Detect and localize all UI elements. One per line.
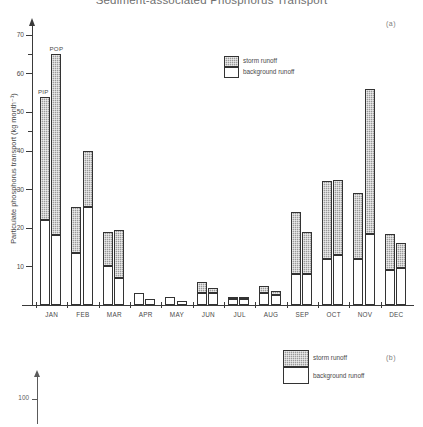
y-tick-10	[26, 266, 33, 267]
bar-segment-storm-runoff	[322, 181, 332, 258]
bar-nov-pop	[365, 89, 375, 305]
bar-segment-background-runoff	[353, 259, 363, 305]
legend-label-storm-runoff: storm runoff	[313, 354, 347, 361]
bar-feb-pip	[71, 207, 81, 305]
bar-aug-pip	[259, 286, 269, 305]
legend-swatches	[224, 56, 239, 78]
panel-b-y-axis-arrow	[34, 370, 40, 377]
y-tick-minor-65	[28, 54, 33, 55]
x-tick-feb	[67, 302, 68, 308]
y-tick-label-40: 40	[0, 147, 24, 154]
bar-segment-background-runoff	[197, 293, 207, 305]
y-tick-label-70: 70	[0, 31, 24, 38]
bar-dec-pop	[396, 243, 406, 305]
legend-swatches	[283, 350, 309, 384]
x-tick-aug	[255, 302, 256, 308]
x-tick-mar	[99, 302, 100, 308]
bar-sep-pip	[291, 212, 301, 305]
bar-mar-pop	[114, 230, 124, 305]
bar-segment-storm-runoff	[197, 282, 207, 294]
y-axis-arrow	[29, 18, 35, 26]
panel-b-label: (b)	[386, 354, 396, 361]
y-tick-label-30: 30	[0, 186, 24, 193]
x-tick-oct	[318, 302, 319, 308]
legend-label-background-runoff: background runoff	[313, 372, 364, 379]
panel-b-y-tick	[32, 399, 38, 400]
bar-segment-background-runoff	[83, 207, 93, 305]
x-tick-nov	[349, 302, 350, 308]
x-tick-jul	[224, 302, 225, 308]
bar-segment-background-runoff	[291, 274, 301, 305]
bar-may-pop	[177, 301, 187, 305]
bar-segment-storm-runoff	[103, 232, 113, 267]
legend-swatch-background-runoff	[224, 67, 239, 78]
bar-segment-storm-runoff	[71, 207, 81, 253]
bar-segment-background-runoff	[114, 278, 124, 305]
bar-mar-pip	[103, 232, 113, 305]
bar-segment-background-runoff	[259, 293, 269, 305]
legend-label-background-runoff: background runoff	[243, 68, 294, 75]
bar-segment-background-runoff	[333, 255, 343, 305]
bar-aug-pop	[271, 291, 281, 305]
bar-segment-background-runoff	[385, 270, 395, 305]
figure-title: Sediment-associated Phosphorus Transport	[0, 0, 423, 6]
bar-jun-pop	[208, 288, 218, 305]
bar-annotation-pop: POP	[49, 45, 63, 52]
y-axis-line	[32, 24, 33, 306]
bar-sep-pop	[302, 232, 312, 305]
y-tick-minor-45	[28, 131, 33, 132]
panel-b-y-axis-line	[37, 376, 38, 424]
bar-oct-pop	[333, 180, 343, 305]
panel-a-chart: Particulate phosphorus transport (kg mon…	[0, 14, 423, 314]
x-axis-line	[22, 305, 414, 306]
bar-jun-pip	[197, 282, 207, 305]
bar-segment-storm-runoff	[333, 180, 343, 255]
bar-segment-background-runoff	[271, 295, 281, 305]
y-tick-40	[26, 151, 33, 152]
figure-sediment-phosphorus-transport: Sediment-associated Phosphorus Transport…	[0, 0, 423, 427]
y-tick-label-60: 60	[0, 70, 24, 77]
bar-segment-storm-runoff	[365, 89, 375, 234]
y-tick-20	[26, 228, 33, 229]
bar-feb-pop	[83, 151, 93, 305]
bar-segment-storm-runoff	[302, 232, 312, 274]
bar-segment-background-runoff	[239, 299, 249, 305]
y-axis-title: Particulate phosphorus transport (kg mon…	[9, 74, 18, 264]
bar-segment-background-runoff	[365, 234, 375, 305]
x-tick-sep	[287, 302, 288, 308]
y-tick-label-20: 20	[0, 224, 24, 231]
y-tick-60	[26, 73, 33, 74]
y-tick-70	[26, 35, 33, 36]
bar-segment-background-runoff	[71, 253, 81, 305]
bar-segment-background-runoff	[134, 293, 144, 305]
panel-b-chart: 100	[0, 314, 423, 427]
bar-jul-pop	[239, 297, 249, 305]
panel-b-y-tick-label: 100	[8, 394, 29, 401]
bar-segment-storm-runoff	[114, 230, 124, 278]
bar-oct-pip	[322, 181, 332, 305]
bar-apr-pip	[134, 293, 144, 305]
bar-segment-storm-runoff	[385, 234, 395, 271]
bar-apr-pop	[145, 299, 155, 305]
bar-jan-pop	[51, 54, 61, 305]
bar-dec-pip	[385, 234, 395, 305]
bar-segment-background-runoff	[396, 268, 406, 305]
bar-jan-pip	[40, 97, 50, 306]
bar-segment-background-runoff	[51, 235, 61, 305]
bar-segment-storm-runoff	[396, 243, 406, 268]
bar-segment-storm-runoff	[51, 54, 61, 235]
bar-nov-pip	[353, 193, 363, 305]
x-tick-jun	[193, 302, 194, 308]
legend-swatch-background-runoff	[283, 367, 309, 384]
bar-segment-storm-runoff	[353, 193, 363, 259]
bar-segment-background-runoff	[302, 274, 312, 305]
bar-jul-pip	[228, 297, 238, 305]
y-tick-label-50: 50	[0, 108, 24, 115]
y-tick-50	[26, 112, 33, 113]
x-tick-apr	[130, 302, 131, 308]
bar-segment-background-runoff	[145, 299, 155, 305]
x-tick-may	[161, 302, 162, 308]
legend-swatch-storm-runoff	[283, 350, 309, 367]
bar-annotation-pip: PIP	[38, 88, 49, 95]
bar-may-pip	[165, 297, 175, 305]
